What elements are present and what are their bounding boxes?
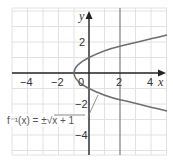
tick-x-2: 2: [116, 76, 122, 88]
tick-y-2: 2: [79, 36, 85, 48]
tick-x-4: 4: [147, 76, 153, 88]
x-axis-label: x: [157, 75, 164, 89]
graph: −4 −2 0 2 4 2 −2 −4 x y f⁻¹(x) = ±√x + 1: [0, 0, 173, 165]
y-axis-arrow-icon: [86, 11, 93, 19]
tick-y-m2: −2: [75, 98, 88, 110]
tick-origin: 0: [78, 76, 84, 88]
tick-x-m2: −2: [51, 76, 64, 88]
tick-y-m4: −4: [75, 129, 88, 141]
y-axis-label: y: [78, 9, 85, 23]
function-label: f⁻¹(x) = ±√x + 1: [7, 115, 75, 126]
tick-x-m4: −4: [20, 76, 33, 88]
